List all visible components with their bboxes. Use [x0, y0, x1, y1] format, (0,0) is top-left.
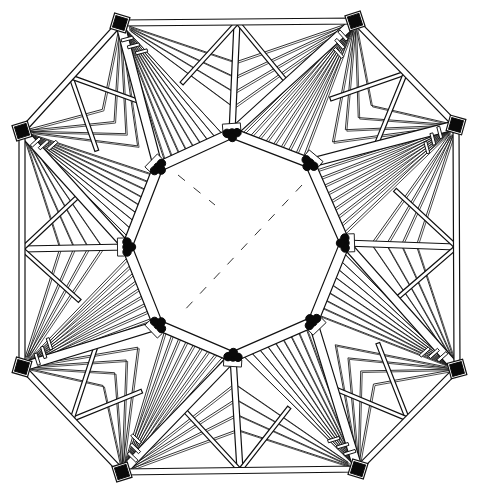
node-lobe — [303, 162, 311, 170]
rafter-edge — [236, 27, 347, 78]
hidden-line — [180, 185, 302, 315]
rafter — [326, 290, 449, 364]
drawing-canvas: Octagonal roof framing plan — [0, 0, 484, 497]
hidden-lines — [178, 175, 302, 315]
outer-plate-beam — [19, 131, 25, 367]
edge-brace — [21, 248, 81, 303]
edge-midpoint-struts — [21, 21, 458, 472]
rafter-edge — [116, 374, 123, 465]
outer-plate-beam — [20, 21, 122, 133]
hidden-line — [178, 175, 215, 205]
node-lobe — [306, 315, 314, 323]
node-lobe — [127, 243, 135, 251]
corner-post — [15, 360, 30, 375]
corner-post — [449, 118, 464, 133]
node-lobe — [157, 318, 165, 326]
king-post — [345, 240, 456, 250]
edge-brace — [394, 188, 458, 248]
outer-plate-beam — [122, 466, 358, 475]
rafter — [355, 29, 358, 118]
king-post — [230, 357, 243, 470]
outer-plate-beam — [120, 18, 355, 26]
node-lobe — [157, 166, 165, 174]
rafter — [115, 373, 122, 464]
node-lobe — [229, 348, 237, 356]
node-lobe — [228, 133, 236, 141]
rafter-edge — [347, 31, 356, 131]
rafter — [237, 430, 348, 466]
outer-plate-beam — [453, 125, 460, 369]
outer-plate-beam — [356, 367, 459, 471]
king-post — [22, 244, 127, 252]
edge-brace — [236, 21, 289, 84]
rafter — [29, 294, 145, 363]
node-lobe — [336, 239, 344, 247]
outer-plate-beam — [20, 365, 124, 474]
rafter-edge — [131, 29, 237, 79]
octagonal-roof-plan — [0, 0, 484, 497]
corner-post — [450, 362, 465, 377]
outer-plate-beam — [353, 19, 458, 127]
